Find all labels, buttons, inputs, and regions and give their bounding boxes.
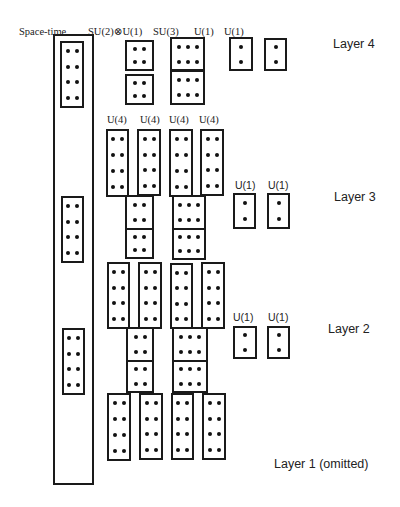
state-dot xyxy=(76,352,80,356)
state-dot xyxy=(215,137,219,141)
state-dot xyxy=(66,235,70,239)
state-dot xyxy=(186,45,190,49)
state-dot xyxy=(277,348,281,352)
state-dot xyxy=(184,185,188,189)
state-dot xyxy=(112,317,116,321)
state-dot xyxy=(143,335,147,339)
state-dot xyxy=(134,367,138,371)
multiplet-box-l3-su2-a xyxy=(125,195,154,230)
state-dot xyxy=(122,401,126,405)
state-dot xyxy=(176,448,180,452)
state-dot xyxy=(134,350,138,354)
state-dot xyxy=(111,153,115,157)
state-dot xyxy=(206,153,210,157)
state-dot xyxy=(113,433,117,437)
state-dot xyxy=(121,286,125,290)
label-su3: SU(3) xyxy=(153,27,179,38)
state-dot xyxy=(75,80,79,84)
state-dot xyxy=(178,218,182,222)
state-dot xyxy=(67,383,71,387)
state-dot xyxy=(184,317,188,321)
state-dot xyxy=(216,270,220,274)
state-dot xyxy=(121,270,125,274)
label-layer-2: Layer 2 xyxy=(328,323,370,336)
label-layer-1: Layer 1 (omitted) xyxy=(274,458,368,471)
multiplet-box-l4-su3-b xyxy=(170,70,205,105)
state-dot xyxy=(66,204,70,208)
state-dot xyxy=(153,317,157,321)
state-dot xyxy=(196,218,200,222)
state-dot xyxy=(187,235,191,239)
state-dot xyxy=(186,60,190,64)
state-dot xyxy=(197,382,201,386)
state-dot xyxy=(152,137,156,141)
state-dot xyxy=(152,153,156,157)
state-dot xyxy=(142,47,146,51)
state-dot xyxy=(134,382,138,386)
state-dot xyxy=(133,203,137,207)
state-dot xyxy=(154,401,158,405)
state-dot xyxy=(186,78,190,82)
state-dot xyxy=(184,153,188,157)
state-dot xyxy=(175,317,179,321)
multiplet-box-l3-su2-b xyxy=(125,228,154,259)
state-dot xyxy=(175,271,179,275)
state-dot xyxy=(179,335,183,339)
label-l3-u4-1: U(4) xyxy=(107,115,127,126)
multiplet-box-l4-u1-a xyxy=(229,37,253,71)
state-dot xyxy=(133,60,137,64)
state-dot xyxy=(175,169,179,173)
label-u1-b: U(1) xyxy=(224,27,244,38)
label-l2-u1-1: U(1) xyxy=(233,312,253,323)
state-dot xyxy=(206,137,210,141)
state-dot xyxy=(122,449,126,453)
state-dot xyxy=(67,336,71,340)
state-dot xyxy=(184,169,188,173)
state-dot xyxy=(111,185,115,189)
state-dot xyxy=(179,350,183,354)
multiplet-box-l3-u1-b xyxy=(267,193,290,229)
state-dot xyxy=(196,235,200,239)
state-dot xyxy=(184,271,188,275)
gauge-layer-diagram: Space-timeSU(2)⊗U(1)SU(3)U(1)U(1)U(4)U(4… xyxy=(0,0,400,507)
multiplet-box-l3-u4-2 xyxy=(137,129,161,196)
multiplet-box-l3-u4-3 xyxy=(169,129,193,197)
state-dot xyxy=(176,401,180,405)
state-dot xyxy=(217,417,221,421)
state-dot xyxy=(217,448,221,452)
state-dot xyxy=(208,432,212,436)
state-dot xyxy=(113,417,117,421)
state-dot xyxy=(143,382,147,386)
state-dot xyxy=(113,401,117,405)
state-dot xyxy=(187,249,191,253)
state-dot xyxy=(208,417,212,421)
multiplet-box-l4-su2-b xyxy=(125,74,154,105)
state-dot xyxy=(243,201,247,205)
multiplet-box-l4-su2-a xyxy=(125,40,154,71)
state-dot xyxy=(76,367,80,371)
state-dot xyxy=(243,217,247,221)
state-dot xyxy=(207,270,211,274)
state-dot xyxy=(153,301,157,305)
state-dot xyxy=(145,417,149,421)
state-dot xyxy=(178,249,182,253)
state-dot xyxy=(66,220,70,224)
label-u1-a: U(1) xyxy=(194,27,214,38)
state-dot xyxy=(178,235,182,239)
multiplet-box-l3-u4-4 xyxy=(200,129,224,196)
state-dot xyxy=(121,301,125,305)
multiplet-box-st-l4 xyxy=(60,41,84,108)
state-dot xyxy=(142,248,146,252)
multiplet-box-l2-u4-2 xyxy=(138,262,162,329)
state-dot xyxy=(206,184,210,188)
label-l3-u4-2: U(4) xyxy=(140,115,160,126)
state-dot xyxy=(243,333,247,337)
state-dot xyxy=(217,432,221,436)
state-dot xyxy=(144,286,148,290)
state-dot xyxy=(145,448,149,452)
state-dot xyxy=(112,286,116,290)
state-dot xyxy=(215,168,219,172)
state-dot xyxy=(120,153,124,157)
state-dot xyxy=(179,382,183,386)
state-dot xyxy=(143,350,147,354)
